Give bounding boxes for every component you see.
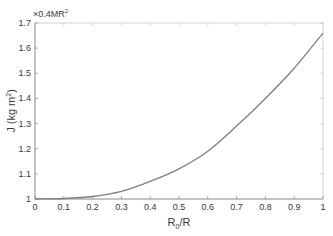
y-tick-label: 1 <box>26 194 31 204</box>
x-tick-label: 0 <box>32 202 37 212</box>
x-tick-label: 0.9 <box>288 202 301 212</box>
y-axis-label: J (kg m2) <box>5 89 17 133</box>
x-tick-label: 0.5 <box>173 202 186 212</box>
y-tick-label: 1.3 <box>18 119 31 129</box>
y-tick-label: 1.6 <box>18 43 31 53</box>
line-chart: 11.11.21.31.41.51.61.7 00.10.20.30.40.50… <box>0 0 333 236</box>
x-tick-label: 0.2 <box>86 202 99 212</box>
x-tick-label: 0.7 <box>230 202 243 212</box>
y-tick-label: 1.7 <box>18 18 31 28</box>
y-tick-label: 1.1 <box>18 169 31 179</box>
y-tick-label: 1.2 <box>18 144 31 154</box>
y-axis-ticks: 11.11.21.31.41.51.61.7 <box>18 18 323 204</box>
axes-frame <box>35 23 323 199</box>
y-multiplier-label: ×0.4MR2 <box>33 8 69 19</box>
y-tick-label: 1.5 <box>18 68 31 78</box>
x-tick-label: 0.1 <box>58 202 71 212</box>
x-tick-label: 1 <box>320 202 325 212</box>
y-tick-label: 1.4 <box>18 93 31 103</box>
x-axis-ticks: 00.10.20.30.40.50.60.70.80.91 <box>32 23 325 212</box>
x-axis-label: R0/R <box>168 216 191 230</box>
x-tick-label: 0.4 <box>144 202 157 212</box>
x-tick-label: 0.8 <box>259 202 272 212</box>
data-curve <box>35 33 323 199</box>
x-tick-label: 0.6 <box>202 202 215 212</box>
x-tick-label: 0.3 <box>115 202 128 212</box>
